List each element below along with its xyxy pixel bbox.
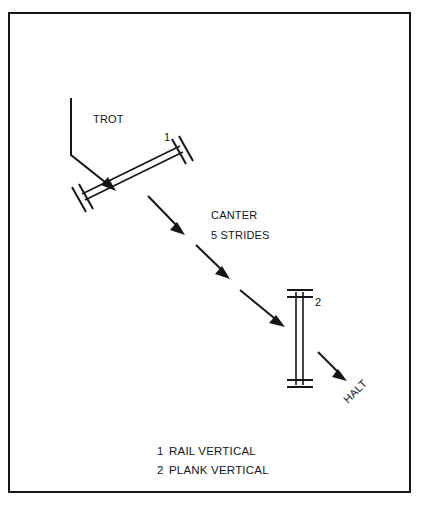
jump-course-diagram: TROT 1 CANTER 5 STRIDES (0, 0, 423, 505)
trot-label: TROT (93, 113, 124, 125)
canter-arrow-2 (196, 245, 230, 279)
jump-1-number-label: 1 (164, 131, 170, 143)
legend: 1 RAIL VERTICAL 2 PLANK VERTICAL (157, 445, 269, 476)
strides-label: 5 STRIDES (211, 229, 270, 241)
canter-arrow-3 (240, 290, 285, 327)
jump-2-plank-vertical (287, 290, 313, 387)
jump-2-number-label: 2 (315, 296, 321, 308)
halt-label: HALT (341, 377, 369, 405)
legend-item-1-number: 1 (157, 445, 164, 457)
jump-1-rail-vertical (72, 136, 193, 212)
canter-arrow-1 (148, 196, 185, 235)
course-canvas: TROT 1 CANTER 5 STRIDES (0, 0, 423, 505)
halt-exit-arrow (318, 352, 347, 381)
legend-item-2-name: PLANK VERTICAL (169, 464, 269, 476)
legend-item-2-number: 2 (157, 464, 164, 476)
trot-approach-arrow (71, 98, 116, 191)
canter-label: CANTER (211, 209, 257, 221)
legend-item-1-name: RAIL VERTICAL (169, 445, 256, 457)
diagram-border (9, 13, 410, 492)
